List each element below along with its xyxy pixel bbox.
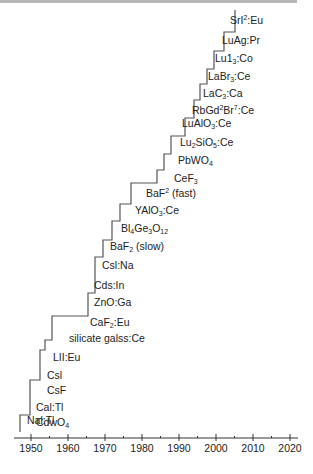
scintillator-label: silicate galss:Ce [69,332,145,344]
scintillator-label: Cds:In [94,279,124,291]
scintillator-label: CeF3 [174,172,198,184]
x-tick-label: 2010 [241,442,264,454]
scintillator-label: Bl4Ge3O12 [121,222,168,234]
x-tick-label: 1950 [19,442,42,454]
scintillator-label: YAlO3:Ce [135,204,179,216]
scintillator-label: LuAlO3:Ce [182,117,231,129]
x-tick-label: 2000 [204,442,227,454]
x-tick-label: 2020 [278,442,301,454]
scintillator-label: LaBr3:Ce [208,70,250,82]
scintillator-label: Lu2SiO5:Ce [180,136,233,148]
scintillator-label: Csl [47,369,62,381]
x-tick-label: 1970 [93,442,116,454]
x-tick-label: 1980 [130,442,153,454]
scintillator-label: ZnO:Ga [94,296,131,308]
x-tick-label: 1960 [56,442,79,454]
scintillator-label: Csl:Na [102,259,134,271]
scintillator-label: Cal:Tl [36,401,63,413]
scintillator-label: LaC3:Ca [203,87,243,99]
scintillator-label: Nal:Tl [27,414,54,426]
scintillator-label: SrI2:Eu [230,14,263,26]
scintillator-label: CsF [47,384,66,396]
scintillator-label: BaF2 (slow) [110,240,164,252]
scintillator-label: RbGd2Br7:Ce [192,104,254,116]
x-tick-label: 1990 [167,442,190,454]
scintillator-label: BaF2 (fast) [146,187,196,199]
scintillator-label: CaF2:Eu [90,316,130,328]
scintillator-label: LuAg:Pr [222,34,260,46]
scintillator-label: Lu13:Co [215,52,253,64]
scintillator-label: LII:Eu [53,351,80,363]
scintillator-label: PbWO4 [178,154,213,166]
